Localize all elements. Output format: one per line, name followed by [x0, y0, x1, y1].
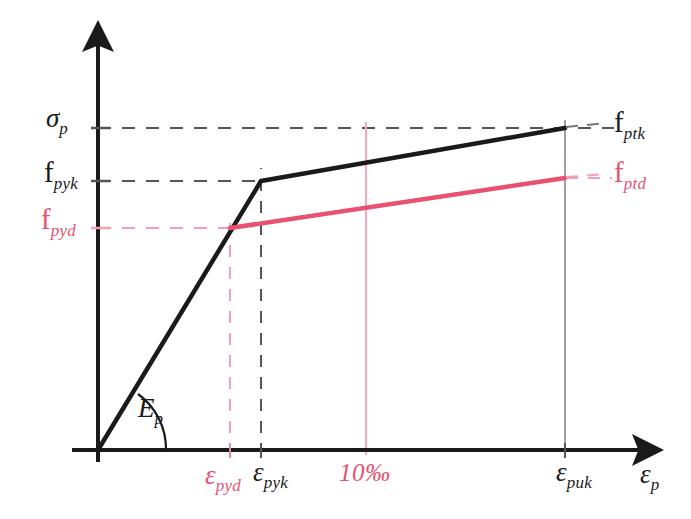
stress-strain-figure: σp fpyk fpyd fptk fptd Ep εpyd εpyk 10‰ …	[0, 0, 691, 519]
y-label-f-pyk-base: f	[44, 156, 54, 188]
right-label-f-ptd-base: f	[614, 156, 624, 188]
x-label-eps-puk-sub: puk	[567, 473, 592, 492]
y-label-sigma-p-base: σ	[46, 103, 59, 133]
x-axis-label-sub: p	[651, 475, 660, 494]
x-label-eps-pyk-sub: pyk	[264, 473, 289, 492]
x-label-eps-puk-base: ε	[556, 457, 567, 487]
x-axis-label-base: ε	[640, 459, 651, 489]
y-label-f-pyd-sub: pyd	[51, 221, 76, 240]
x-label-eps-pyd-sub: pyd	[216, 476, 241, 495]
y-label-sigma-p: σp	[46, 105, 68, 137]
leader-dash-f-ptd	[566, 174, 607, 177]
x-label-eps-pyd-base: ε	[205, 460, 216, 490]
x-label-eps-pyk: εpyk	[253, 459, 288, 491]
right-label-f-ptd-sub: ptd	[624, 174, 647, 193]
y-label-f-pyk: fpyk	[44, 158, 78, 192]
modulus-label-base: E	[138, 393, 155, 423]
design-curve	[230, 178, 565, 228]
plot-canvas	[0, 0, 691, 519]
y-label-f-pyd-base: f	[41, 203, 51, 235]
right-label-f-ptd: fptd	[614, 158, 646, 192]
right-label-f-ptk: fptk	[614, 108, 645, 142]
x-label-eps-puk: εpuk	[556, 459, 592, 491]
x-label-eps-pyd: εpyd	[205, 462, 241, 494]
x-axis-label: εp	[640, 461, 659, 493]
y-label-f-pyk-sub: pyk	[54, 174, 79, 193]
y-label-f-pyd: fpyd	[41, 205, 76, 239]
x-label-ten-permille: 10‰	[339, 460, 391, 485]
characteristic-curve	[98, 128, 565, 450]
x-label-eps-pyk-base: ε	[253, 457, 264, 487]
y-label-sigma-p-sub: p	[59, 119, 68, 138]
right-label-f-ptk-base: f	[614, 106, 624, 138]
modulus-label-E-p: Ep	[138, 395, 163, 427]
x-label-ten-permille-text: 10‰	[339, 459, 391, 486]
right-label-f-ptk-sub: ptk	[624, 124, 646, 143]
modulus-label-sub: p	[155, 409, 164, 428]
leader-dash-f-ptk	[566, 123, 607, 127]
